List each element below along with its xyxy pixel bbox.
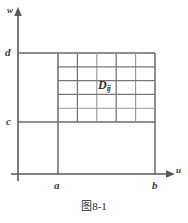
figure-8-1: w u d c a b Dij 图8-1 bbox=[0, 0, 188, 223]
region-label-dij: Dij bbox=[98, 79, 111, 93]
arrow-right-icon bbox=[166, 170, 175, 178]
figure-caption: 图8-1 bbox=[0, 200, 188, 212]
coordinate-diagram bbox=[0, 0, 188, 196]
w-axis-label: w bbox=[7, 6, 13, 15]
region-label-subscript: ij bbox=[107, 84, 111, 93]
tick-label-a: a bbox=[54, 180, 60, 191]
u-axis-label: u bbox=[176, 166, 181, 175]
tick-label-c: c bbox=[6, 116, 11, 127]
region-label-main: D bbox=[98, 78, 107, 92]
tick-label-b: b bbox=[152, 180, 158, 191]
tick-label-d: d bbox=[5, 47, 11, 58]
arrow-up-icon bbox=[14, 7, 22, 16]
plot-area: w u d c a b Dij bbox=[0, 0, 188, 196]
